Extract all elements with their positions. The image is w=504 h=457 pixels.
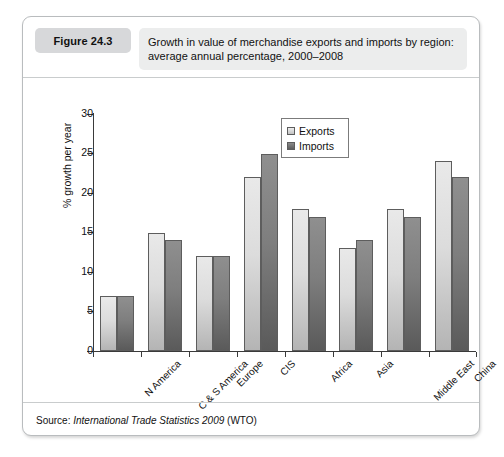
legend-item-exports: Exports: [287, 123, 343, 138]
legend-item-imports: Imports: [287, 138, 343, 153]
figure-number-badge: Figure 24.3: [35, 28, 131, 53]
source-title: International Trade Statistics 2009: [73, 415, 224, 426]
x-axis-label-layer: N AmericaC & S AmericaEuropeCISAfricaAsi…: [23, 78, 479, 400]
chart-plot-area: % growth per year 0 5 10 15 20 25 30 N A…: [23, 78, 479, 400]
figure-title-line1: Growth in value of merchandise exports a…: [148, 36, 454, 48]
legend-label-imports: Imports: [299, 140, 334, 152]
x-axis-label-china: China: [472, 358, 498, 384]
source-suffix: (WTO): [227, 415, 257, 426]
figure-title: Growth in value of merchandise exports a…: [148, 35, 454, 64]
x-axis-label-middle-east: Middle East: [432, 358, 477, 403]
legend-swatch-exports-icon: [287, 127, 295, 135]
figure-card: Figure 24.3 Growth in value of merchandi…: [22, 16, 480, 436]
legend-label-exports: Exports: [299, 125, 335, 137]
figure-source: Source: International Trade Statistics 2…: [36, 415, 257, 426]
legend-swatch-imports-icon: [287, 142, 295, 150]
figure-title-line2: average annual percentage, 2000–2008: [148, 50, 343, 62]
chart-legend: Exports Imports: [281, 118, 349, 158]
x-axis-label-africa: Africa: [328, 358, 354, 384]
footer-divider: [23, 402, 479, 403]
x-axis-label-cis: CIS: [278, 358, 298, 378]
x-axis-label-n-america: N America: [142, 358, 182, 398]
source-prefix: Source:: [36, 415, 70, 426]
figure-header: Figure 24.3 Growth in value of merchandi…: [35, 28, 467, 70]
x-axis-label-asia: Asia: [374, 358, 396, 380]
figure-title-box: Growth in value of merchandise exports a…: [139, 28, 467, 70]
